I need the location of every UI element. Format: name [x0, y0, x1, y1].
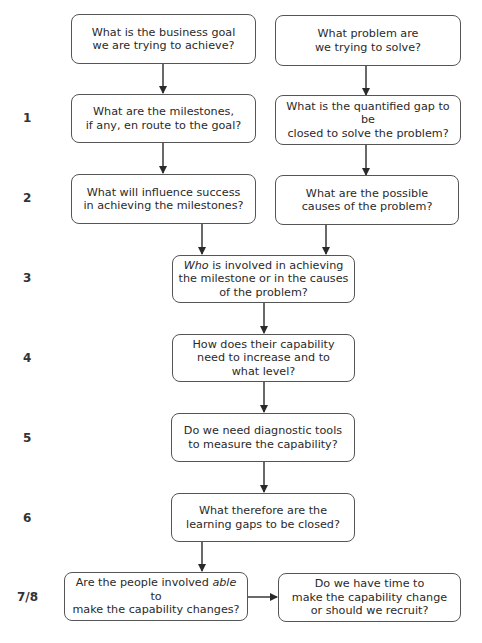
node-text: How does their capability	[192, 338, 334, 351]
node-text: make the capability changes?	[72, 603, 239, 616]
node-learning-gaps: What therefore are thelearning gaps to b…	[171, 493, 355, 542]
node-milestones: What are the milestones,if any, en route…	[71, 94, 256, 143]
node-text: to	[150, 590, 161, 603]
node-text: Do we have time to	[315, 577, 425, 590]
node-text: the milestone or in the causes	[179, 272, 349, 285]
node-text-italic: Who	[184, 259, 209, 272]
node-text: or should we recruit?	[311, 604, 429, 617]
node-text: Do we need diagnostic tools	[184, 424, 342, 437]
node-text: need to increase and to	[197, 351, 330, 364]
node-text: in achieving the milestones?	[83, 199, 243, 212]
node-possible-causes: What are the possiblecauses of the probl…	[275, 175, 459, 225]
node-business-goal: What is the business goalwe are trying t…	[71, 14, 256, 64]
node-text: What are the possible	[306, 187, 428, 200]
node-text: we are trying to achieve?	[92, 39, 234, 52]
node-text: what level?	[232, 365, 296, 378]
node-text: of the problem?	[219, 286, 307, 299]
step-label-7-8: 7/8	[17, 590, 38, 604]
step-label-4: 4	[23, 351, 31, 365]
node-text: causes of the problem?	[302, 200, 433, 213]
node-text: if any, en route to the goal?	[86, 119, 241, 132]
node-who-involved: Who is involved in achievingthe mileston…	[172, 255, 355, 303]
node-text: What will influence success	[87, 186, 241, 199]
node-text-italic: able	[212, 576, 236, 589]
node-influence-success: What will influence successin achieving …	[71, 174, 256, 224]
node-text: What are the milestones,	[93, 105, 234, 118]
step-label-1: 1	[23, 111, 31, 125]
node-text: What therefore are the	[199, 504, 327, 517]
step-label-6: 6	[23, 511, 31, 525]
node-text: closed to solve the problem?	[287, 127, 448, 140]
step-label-5: 5	[23, 431, 31, 445]
node-text: What problem are	[318, 27, 419, 40]
node-text: we trying to solve?	[315, 41, 421, 54]
node-text: What is the quantified gap to be	[286, 100, 449, 127]
step-label-3: 3	[23, 271, 31, 285]
node-text: is involved in achieving	[209, 259, 344, 272]
node-diagnostic-tools: Do we need diagnostic toolsto measure th…	[171, 413, 355, 462]
node-text: learning gaps to be closed?	[186, 518, 340, 531]
node-text: make the capability change	[292, 591, 447, 604]
node-text: to measure the capability?	[188, 438, 337, 451]
node-text: What is the business goal	[92, 26, 236, 39]
node-quantified-gap: What is the quantified gap to beclosed t…	[275, 95, 461, 145]
step-label-2: 2	[23, 191, 31, 205]
node-text: Are the people involved	[76, 576, 213, 589]
node-able-to-change: Are the people involved able tomake the …	[64, 572, 248, 621]
node-time-or-recruit: Do we have time tomake the capability ch…	[278, 573, 461, 622]
node-capability-increase: How does their capabilityneed to increas…	[172, 334, 355, 382]
node-problem: What problem arewe trying to solve?	[275, 15, 461, 66]
